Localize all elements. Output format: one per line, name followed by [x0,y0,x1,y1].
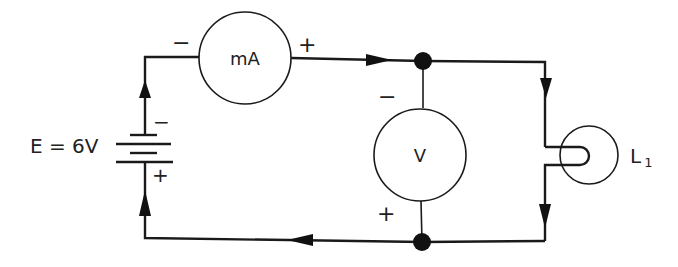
battery-plus-sign: + [152,163,169,187]
arrow-up-left-upper-icon [139,80,151,98]
ammeter-label: mA [230,48,261,69]
voltmeter-minus-sign: − [378,84,396,109]
arrow-down-right-upper-icon [540,78,552,98]
voltmeter-plus-sign: + [377,201,395,226]
battery: − + E = 6V [30,110,173,187]
lamp-label: L1 [630,144,652,170]
lamp-label-subscript: 1 [644,155,652,170]
arrow-right-top-icon [366,54,392,66]
junction-bottom [413,233,431,251]
circuit-diagram: − + E = 6V mA − + V − + L1 [0,0,678,267]
ammeter-plus-sign: + [298,32,316,57]
wire-bottom [145,162,545,242]
arrow-up-left-lower-icon [139,190,151,216]
junction-top [414,52,432,70]
battery-minus-sign: − [153,110,170,134]
arrow-down-right-lower-icon [539,204,551,228]
battery-label: E = 6V [30,134,99,158]
ammeter-minus-sign: − [172,30,190,55]
voltmeter: V − + [374,84,466,226]
lamp-filament-loop [580,147,589,165]
wire-lamp-loop-return [545,165,580,241]
lamp: L1 [560,126,652,184]
arrow-left-bottom-icon [287,234,313,246]
voltmeter-label: V [414,145,427,166]
